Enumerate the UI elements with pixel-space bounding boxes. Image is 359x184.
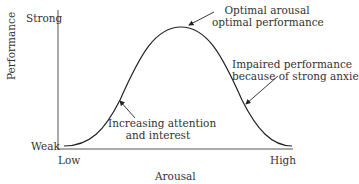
x-axis-label: Arousal [155, 170, 196, 182]
annotation-left: Increasing attention and interest [108, 117, 208, 141]
x-tick-high: High [270, 154, 296, 166]
arrow-left [120, 101, 135, 118]
y-axis-label: Performance [5, 12, 17, 80]
annotation-peak: Optimal arousal optimal performance [212, 4, 322, 28]
annotation-left-line2: and interest [108, 129, 208, 141]
annotation-peak-line1: Optimal arousal [212, 4, 322, 16]
x-tick-low: Low [58, 154, 80, 166]
annotation-left-line1: Increasing attention [108, 117, 208, 129]
annotation-right: Impaired performance because of strong a… [232, 58, 352, 82]
y-tick-weak: Weak [31, 140, 60, 152]
annotation-right-line1: Impaired performance [232, 58, 352, 70]
y-tick-strong: Strong [26, 12, 62, 24]
annotation-right-line2: because of strong anxiety [232, 70, 352, 82]
arrow-peak [189, 12, 214, 25]
annotation-peak-line2: optimal performance [212, 16, 322, 28]
